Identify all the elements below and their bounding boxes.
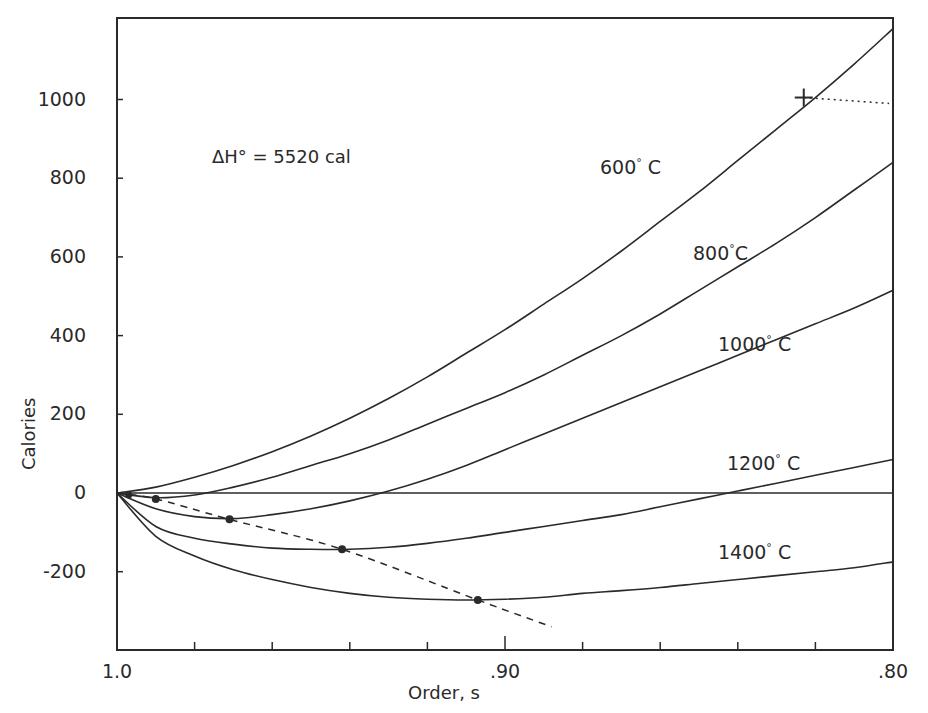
minima-locus-dashed-line bbox=[117, 493, 552, 627]
minimum-point bbox=[338, 545, 346, 553]
curve-label-600c: 600° C bbox=[600, 156, 661, 178]
y-tick-label: 800 bbox=[0, 166, 86, 188]
y-tick-label: 600 bbox=[0, 245, 86, 267]
y-tick-label: 200 bbox=[0, 402, 86, 424]
x-axis-title: Order, s bbox=[408, 682, 480, 703]
x-tick-label: .90 bbox=[475, 660, 535, 682]
minimum-point bbox=[152, 495, 160, 503]
y-axis-title: Calories bbox=[18, 398, 39, 470]
y-tick-label: 1000 bbox=[0, 88, 86, 110]
y-tick-label: 0 bbox=[0, 481, 86, 503]
y-tick-label: -200 bbox=[0, 560, 86, 582]
minimum-point bbox=[125, 491, 132, 498]
curve-1000c bbox=[117, 290, 893, 518]
y-tick-label: 400 bbox=[0, 324, 86, 346]
curve-label-1400c: 1400° C bbox=[718, 541, 791, 563]
x-tick-label: .80 bbox=[863, 660, 923, 682]
dotted-line bbox=[804, 98, 889, 104]
delta-h-annotation: ΔH° = 5520 cal bbox=[212, 146, 351, 167]
plot-area bbox=[0, 0, 928, 713]
curve-label-1000c: 1000° C bbox=[718, 333, 791, 355]
curve-600c bbox=[117, 29, 893, 493]
curve-label-1200c: 1200° C bbox=[727, 452, 800, 474]
x-tick-label: 1.0 bbox=[87, 660, 147, 682]
minimum-point bbox=[226, 515, 234, 523]
curve-label-800c: 800°C bbox=[693, 242, 748, 264]
minimum-point bbox=[474, 596, 482, 604]
